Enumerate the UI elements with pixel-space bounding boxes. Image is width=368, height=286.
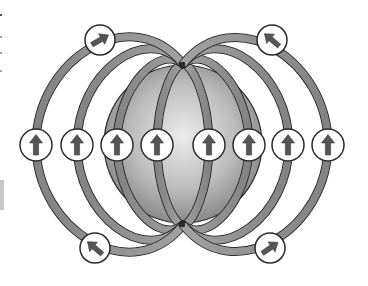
indicator-mid-3	[101, 129, 133, 161]
indicator-mid-6	[233, 129, 265, 161]
indicator-mid-2	[61, 129, 93, 161]
indicator-mid-1	[20, 129, 52, 161]
indicator-mid-4	[141, 129, 173, 161]
north-pole-point	[181, 62, 185, 66]
indicator-bottom-right	[255, 233, 285, 263]
south-pole-point	[181, 223, 185, 227]
indicator-mid-8	[312, 129, 344, 161]
dipole-field-diagram	[0, 0, 368, 286]
indicator-top-left	[85, 25, 115, 55]
indicator-bottom-left	[80, 233, 110, 263]
indicator-mid-7	[272, 129, 304, 161]
indicator-mid-5	[193, 129, 225, 161]
indicator-top-right	[257, 25, 287, 55]
